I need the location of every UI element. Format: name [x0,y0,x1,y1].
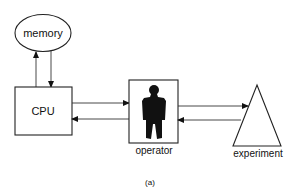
diagram-canvas: memory CPU operator experiment (a) [0,0,295,193]
operator-node: operator [129,80,178,156]
cpu-label: CPU [31,105,54,117]
memory-label: memory [23,27,63,39]
experiment-node: experiment [233,85,283,159]
experiment-triangle [233,85,281,146]
figure-caption: (a) [145,178,155,187]
memory-node: memory [15,15,71,52]
operator-label: operator [135,145,173,156]
experiment-label: experiment [233,148,283,159]
cpu-node: CPU [15,87,72,135]
